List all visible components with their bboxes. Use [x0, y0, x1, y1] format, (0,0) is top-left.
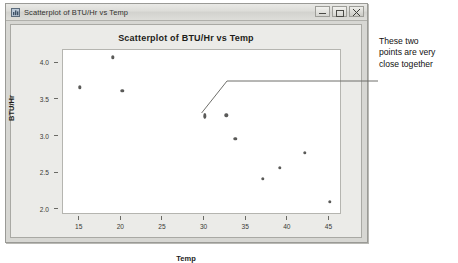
chart-surface: Scatterplot of BTU/Hr vs Temp BTU/Hr Tem…	[11, 25, 361, 237]
minimize-button[interactable]	[315, 6, 330, 17]
y-tick-mark	[54, 135, 58, 136]
maximize-button[interactable]	[332, 6, 347, 17]
x-tick-label: 15	[75, 223, 82, 230]
chart-title: Scatterplot of BTU/Hr vs Temp	[11, 33, 361, 43]
plot-area	[62, 49, 341, 214]
x-tick-label: 20	[117, 223, 124, 230]
x-axis-label: Temp	[11, 254, 361, 263]
x-tick-label: 45	[325, 223, 332, 230]
data-point	[111, 56, 114, 59]
y-tick-mark	[54, 62, 58, 63]
x-tick-label: 40	[283, 223, 290, 230]
annotation-line-2: points are very	[379, 47, 457, 58]
y-tick-label: 3.5	[40, 95, 49, 102]
x-axis: 15202530354045	[11, 216, 363, 236]
y-tick-mark	[54, 98, 58, 99]
y-axis: 2.02.53.03.54.0	[11, 25, 58, 239]
data-point	[234, 137, 237, 140]
data-point	[303, 151, 306, 154]
y-tick-mark	[54, 208, 58, 209]
y-tick-label: 3.0	[40, 132, 49, 139]
y-tick-label: 2.0	[40, 205, 49, 212]
window-titlebar[interactable]: Scatterplot of BTU/Hr vs Temp	[6, 4, 367, 21]
window-title: Scatterplot of BTU/Hr vs Temp	[24, 8, 128, 17]
data-point	[278, 166, 281, 169]
annotation-line-1: These two	[379, 36, 457, 47]
data-point	[120, 89, 123, 92]
data-point	[328, 200, 331, 203]
y-tick-mark	[54, 172, 58, 173]
x-tick-label: 25	[158, 223, 165, 230]
x-tick-mark	[328, 216, 329, 220]
x-tick-mark	[78, 216, 79, 220]
y-tick-label: 4.0	[40, 59, 49, 66]
x-tick-label: 35	[242, 223, 249, 230]
data-point	[225, 114, 228, 117]
data-point-pair	[203, 113, 206, 119]
x-tick-mark	[203, 216, 204, 220]
data-point	[261, 177, 264, 180]
x-tick-label: 30	[200, 223, 207, 230]
close-button[interactable]	[349, 6, 364, 17]
y-tick-label: 2.5	[40, 169, 49, 176]
chart-client-area: Scatterplot of BTU/Hr vs Temp BTU/Hr Tem…	[10, 24, 362, 238]
window-controls	[315, 6, 364, 17]
annotation-text: These two points are very close together	[379, 36, 457, 70]
x-tick-mark	[161, 216, 162, 220]
annotation-line-3: close together	[379, 59, 457, 70]
x-tick-mark	[286, 216, 287, 220]
chart-window: Scatterplot of BTU/Hr vs Temp Scatterplo…	[5, 3, 368, 243]
chart-window-icon	[11, 8, 20, 17]
data-point	[78, 86, 81, 89]
x-tick-mark	[245, 216, 246, 220]
x-tick-mark	[120, 216, 121, 220]
